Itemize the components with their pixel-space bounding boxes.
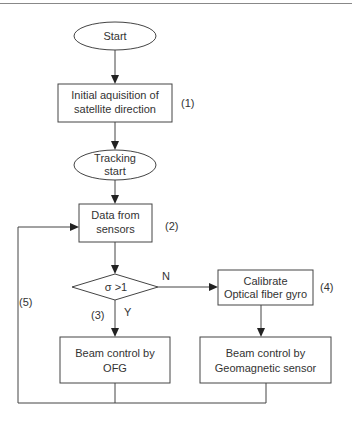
branch-no-label: N (162, 270, 170, 282)
arrowhead-icon (257, 328, 265, 337)
node-initial: Initial aquisition of satellite directio… (58, 84, 172, 122)
node-start-label: Start (103, 30, 126, 42)
flowchart-canvas: Start Initial aquisition of satellite di… (0, 0, 352, 423)
arrowhead-icon (209, 283, 218, 291)
arrowhead-icon (111, 195, 119, 204)
arrowhead-icon (111, 75, 119, 84)
node-start: Start (74, 22, 156, 50)
node-beam-geo-line1: Beam control by (226, 347, 306, 359)
node-decision-label: σ >1 (105, 281, 127, 293)
node-beam-geo: Beam control by Geomagnetic sensor (200, 337, 331, 383)
node-calibrate-line2: Optical fiber gyro (224, 288, 307, 300)
arrowhead-icon (111, 328, 119, 337)
step-label-2: (2) (165, 220, 178, 232)
node-beam-ofg: Beam control by OFG (60, 337, 170, 383)
step-label-1: (1) (181, 97, 194, 109)
node-initial-line1: Initial aquisition of (71, 89, 159, 101)
arrowhead-icon (111, 141, 119, 150)
arrowhead-icon (111, 265, 119, 274)
node-data: Data from sensors (79, 204, 152, 242)
step-label-5: (5) (19, 296, 32, 308)
node-beam-ofg-line1: Beam control by (75, 347, 155, 359)
node-beam-ofg-line2: OFG (103, 362, 127, 374)
step-label-3: (3) (91, 309, 104, 321)
node-beam-geo-line2: Geomagnetic sensor (215, 362, 317, 374)
branch-yes-label: Y (124, 306, 132, 318)
node-tracking-line2: start (104, 165, 125, 177)
node-calibrate-line1: Calibrate (243, 275, 287, 287)
node-data-line2: sensors (96, 223, 135, 235)
node-decision: σ >1 (72, 274, 158, 300)
node-data-line1: Data from (91, 209, 139, 221)
node-tracking: Tracking start (74, 150, 156, 180)
node-tracking-line1: Tracking (94, 152, 136, 164)
arrowhead-icon (70, 223, 79, 231)
node-calibrate: Calibrate Optical fiber gyro (218, 270, 313, 305)
step-label-4: (4) (320, 281, 333, 293)
node-initial-line2: satellite direction (74, 103, 156, 115)
